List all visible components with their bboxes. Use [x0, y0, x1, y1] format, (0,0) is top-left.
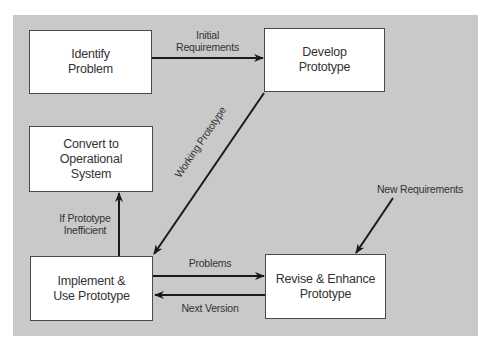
node-label: Convert to Operational System [60, 137, 122, 182]
node-develop-prototype: Develop Prototype [264, 28, 385, 92]
edge-label-next-version: Next Version [165, 302, 255, 314]
node-label: Identify Problem [68, 47, 113, 77]
node-label: Develop Prototype [299, 45, 351, 75]
node-label: Implement & Use Prototype [53, 274, 130, 304]
node-revise-enhance-prototype: Revise & Enhance Prototype [265, 254, 386, 319]
node-identify-problem: Identify Problem [29, 30, 152, 94]
node-implement-use-prototype: Implement & Use Prototype [30, 256, 153, 321]
edge-label-if-prototype-inefficient: If Prototype Inefficient [50, 212, 120, 236]
edge-label-problems: Problems [170, 257, 250, 269]
node-convert-to-operational-system: Convert to Operational System [29, 126, 153, 192]
edge-label-initial-requirements: Initial Requirements [160, 29, 255, 53]
node-label: Revise & Enhance Prototype [276, 272, 376, 302]
edge-label-new-requirements: New Requirements [370, 183, 470, 195]
